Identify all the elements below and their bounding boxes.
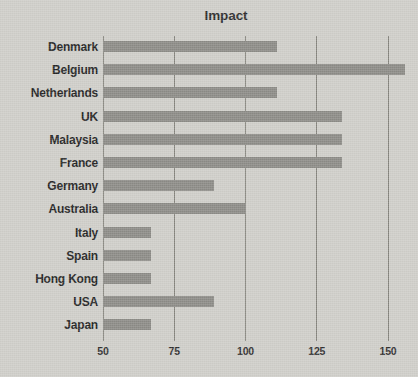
bar-row[interactable]: Germany [0,175,418,198]
bar[interactable] [103,227,151,238]
bar[interactable] [103,157,342,168]
x-tick-label: 50 [97,345,108,357]
bar-category-label: Australia [48,202,98,216]
bar-category-label: Belgium [52,63,98,77]
bar-row[interactable]: USA [0,291,418,314]
bar[interactable] [103,41,277,52]
bar[interactable] [103,296,214,307]
bar-row[interactable]: Australia [0,198,418,221]
bar[interactable] [103,87,277,98]
bar-category-label: Spain [66,249,98,263]
bar[interactable] [103,111,342,122]
bar[interactable] [103,319,151,330]
bar-row[interactable]: UK [0,106,418,129]
bar-row[interactable]: Hong Kong [0,268,418,291]
bar-category-label: USA [73,295,98,309]
bar-row[interactable]: Italy [0,222,418,245]
bar-category-label: Netherlands [31,86,98,100]
plot-area: DenmarkBelgiumNetherlandsUKMalaysiaFranc… [0,36,418,341]
bar-category-label: UK [81,110,98,124]
bar[interactable] [103,273,151,284]
bar-category-label: Malaysia [50,133,98,147]
bar[interactable] [103,203,246,214]
bar-row[interactable]: Japan [0,314,418,337]
bar-category-label: Germany [47,179,98,193]
x-tick-label: 100 [237,345,254,357]
bar[interactable] [103,64,405,75]
chart-title: Impact [0,8,418,23]
impact-bar-chart: Impact DenmarkBelgiumNetherlandsUKMalays… [0,0,418,377]
bar-category-label: Denmark [48,40,98,54]
bar-row[interactable]: Malaysia [0,129,418,152]
bar[interactable] [103,180,214,191]
bar-row[interactable]: Denmark [0,36,418,59]
x-axis-tick-labels: 5075100125150 [0,345,418,363]
x-tick-label: 150 [380,345,397,357]
bar[interactable] [103,250,151,261]
bar-category-label: Italy [75,226,98,240]
bar-row[interactable]: France [0,152,418,175]
bar-category-label: Japan [64,318,98,332]
bar-category-label: France [60,156,98,170]
bar-row[interactable]: Belgium [0,59,418,82]
bar-row[interactable]: Spain [0,245,418,268]
bar-category-label: Hong Kong [35,272,98,286]
x-tick-label: 75 [169,345,180,357]
bar-row[interactable]: Netherlands [0,82,418,105]
bar[interactable] [103,134,342,145]
x-tick-label: 125 [308,345,325,357]
